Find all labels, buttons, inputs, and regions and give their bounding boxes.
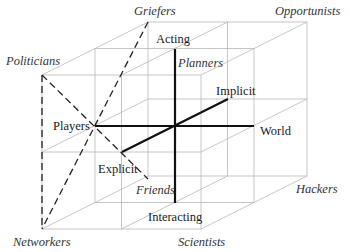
role-friends: Friends: [135, 183, 175, 197]
role-politicians: Politicians: [5, 54, 60, 68]
role-griefers: Griefers: [134, 4, 176, 18]
label-interacting: Interacting: [148, 210, 203, 224]
cube-canvas: Acting Interacting Players World Implici…: [0, 0, 350, 252]
role-opportunists: Opportunists: [275, 4, 340, 18]
role-hackers: Hackers: [295, 182, 338, 196]
label-implicit: Implicit: [216, 84, 256, 98]
label-explicit: Explicit: [98, 162, 138, 176]
player-type-cube-diagram: Acting Interacting Players World Implici…: [0, 0, 350, 252]
role-networkers: Networkers: [12, 235, 71, 249]
role-scientists: Scientists: [178, 235, 225, 249]
label-acting: Acting: [156, 32, 191, 46]
label-players: Players: [53, 119, 90, 133]
role-planners: Planners: [177, 56, 223, 70]
main-axes: [95, 49, 254, 203]
label-world: World: [260, 124, 292, 138]
